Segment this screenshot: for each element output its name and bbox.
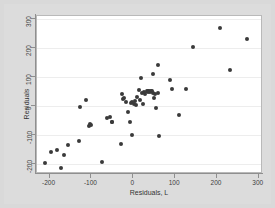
scatter-point <box>119 142 123 146</box>
scatter-point <box>110 120 114 124</box>
scatter-point <box>218 26 222 30</box>
scatter-point <box>100 160 104 164</box>
x-axis-tick-label: -100 <box>84 179 97 186</box>
scatter-point <box>55 148 59 152</box>
scatter-point <box>184 87 188 91</box>
scatter-point <box>59 166 63 170</box>
x-axis-tick-label: 300 <box>252 179 263 186</box>
x-axis-tick-label: 200 <box>211 179 222 186</box>
scatter-point <box>126 110 130 114</box>
scatter-point <box>245 37 249 41</box>
gridline-y <box>37 77 261 78</box>
x-axis-tick <box>216 174 217 178</box>
x-axis-tick <box>49 174 50 178</box>
y-axis-tick-label: 200 <box>26 45 33 56</box>
scatter-point <box>191 45 195 49</box>
y-axis-tick-label: -200 <box>26 160 33 173</box>
x-axis-tick <box>90 174 91 178</box>
gridline-y <box>37 164 261 165</box>
y-axis-tick-label: -100 <box>26 131 33 144</box>
scatter-point <box>157 134 161 138</box>
scatter-point <box>177 113 181 117</box>
x-axis-tick-label: 0 <box>130 179 134 186</box>
scatter-point <box>122 96 126 100</box>
scatter-point <box>78 105 82 109</box>
gridline-y <box>37 48 261 49</box>
scatter-point <box>130 133 134 137</box>
y-axis-line <box>35 14 36 174</box>
gridline-y <box>37 135 261 136</box>
y-axis-tick-label: 0 <box>26 107 33 111</box>
y-axis-tick-label: 300 <box>26 16 33 27</box>
scatter-point <box>170 87 174 91</box>
scatter-point <box>84 98 88 102</box>
scatter-point <box>154 106 158 110</box>
scatter-point <box>66 143 70 147</box>
x-axis-tick-label: -200 <box>42 179 55 186</box>
scatter-point <box>108 115 112 119</box>
scatter-point <box>156 63 160 67</box>
scatter-point <box>151 72 155 76</box>
scatter-point <box>139 76 143 80</box>
scatter-point <box>49 150 53 154</box>
scatter-point <box>141 102 145 106</box>
scatter-point <box>43 161 47 165</box>
scatter-point <box>124 100 128 104</box>
x-axis-tick <box>132 174 133 178</box>
scatter-plot-figure: Residuals Residuals, L -200-100010020030… <box>0 0 275 208</box>
x-axis-tick <box>258 174 259 178</box>
scatter-point <box>152 96 156 100</box>
scatter-point <box>89 123 93 127</box>
gridline-y <box>37 19 261 20</box>
plot-area <box>36 15 262 173</box>
gridline-y <box>37 106 261 107</box>
scatter-point <box>133 99 137 103</box>
scatter-point <box>228 68 232 72</box>
scatter-point <box>128 120 132 124</box>
scatter-point <box>156 91 160 95</box>
y-axis-tick-label: 100 <box>26 74 33 85</box>
x-axis-title: Residuals, L <box>36 189 262 196</box>
x-axis-tick <box>174 174 175 178</box>
x-axis-line <box>35 173 263 174</box>
x-axis-tick-label: 100 <box>169 179 180 186</box>
y-axis-title: Residuals <box>23 89 30 120</box>
scatter-point <box>168 78 172 82</box>
scatter-point <box>77 139 81 143</box>
scatter-point <box>62 153 66 157</box>
